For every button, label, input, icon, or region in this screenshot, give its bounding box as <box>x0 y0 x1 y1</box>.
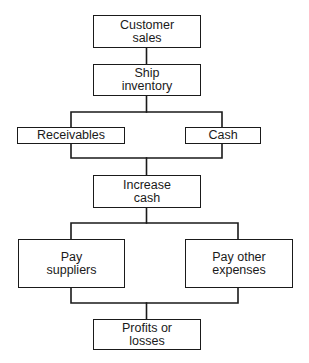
flowchart-canvas: Customer sales Ship inventory Receivable… <box>0 0 309 363</box>
node-label: Receivables <box>37 129 105 142</box>
node-pay-other-expenses: Pay other expenses <box>185 239 293 288</box>
connector-split-bar-lower <box>71 223 238 239</box>
node-ship-inventory: Ship inventory <box>93 64 201 96</box>
node-receivables: Receivables <box>17 127 125 144</box>
node-label: Profits or losses <box>122 322 172 348</box>
node-customer-sales: Customer sales <box>93 15 201 48</box>
node-label: Increase cash <box>123 179 171 205</box>
connector-join-bar-bottom <box>71 287 238 303</box>
node-increase-cash: Increase cash <box>93 175 201 208</box>
connector-split-bar-top <box>71 112 222 127</box>
node-profits-or-losses: Profits or losses <box>93 319 201 350</box>
node-label: Ship inventory <box>122 67 173 93</box>
node-label: Cash <box>208 129 237 142</box>
node-pay-suppliers: Pay suppliers <box>18 239 125 288</box>
connector-join-bar-middle <box>71 143 222 158</box>
node-cash: Cash <box>185 127 261 144</box>
node-label: Pay suppliers <box>46 251 96 277</box>
node-label: Pay other expenses <box>212 251 266 277</box>
node-label: Customer sales <box>120 19 174 45</box>
